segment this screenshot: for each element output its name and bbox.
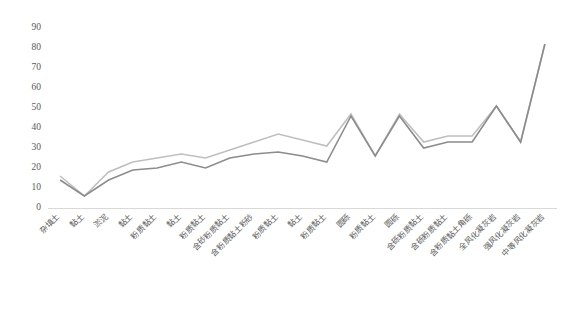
x-tick-label: 圆砾 [382, 211, 400, 229]
x-tick-label: 淤泥 [92, 211, 110, 229]
line-chart: 0102030405060708090 杂填土黏土淤泥黏土粉质黏土黏土粉质黏土含… [0, 0, 571, 311]
y-tick-label: 70 [32, 62, 42, 72]
x-tick-label: 黏土 [164, 211, 182, 229]
y-tick-label: 0 [36, 202, 41, 212]
x-axis-tick-labels: 杂填土黏土淤泥黏土粉质黏土黏土粉质黏土含砂粉质黏土含粉质黏土粉砂粉质黏土黏土粉质… [37, 211, 546, 258]
y-axis-tick-labels: 0102030405060708090 [32, 22, 42, 212]
y-tick-label: 40 [32, 122, 42, 132]
x-tick-label: 黏土 [67, 211, 85, 229]
y-tick-label: 90 [32, 22, 42, 32]
y-tick-label: 10 [32, 182, 42, 192]
x-tick-label: 圆砾 [334, 211, 352, 229]
x-tick-label: 粉质黏土 [129, 211, 159, 241]
series-line-1 [60, 44, 545, 196]
x-tick-label: 含粉质黏土角砾 [427, 211, 474, 258]
y-tick-label: 60 [32, 82, 42, 92]
x-tick-label: 黏土 [116, 211, 134, 229]
x-tick-label: 粉质黏土 [347, 211, 377, 241]
y-tick-label: 50 [32, 102, 42, 112]
x-tick-label: 黏土 [286, 211, 304, 229]
series-layer [60, 44, 545, 196]
x-tick-label: 含粉质黏土粉砂 [209, 211, 256, 258]
x-tick-label: 粉质黏土 [250, 211, 280, 241]
x-tick-label: 杂填土 [37, 211, 61, 235]
x-tick-label: 中等风化凝灰岩 [500, 211, 547, 258]
y-tick-label: 80 [32, 42, 42, 52]
series-line-2 [60, 44, 545, 196]
chart-canvas: 0102030405060708090 杂填土黏土淤泥黏土粉质黏土黏土粉质黏土含… [0, 0, 571, 311]
y-tick-label: 30 [32, 142, 42, 152]
y-tick-label: 20 [32, 162, 42, 172]
x-tick-label: 粉质黏土 [298, 211, 328, 241]
